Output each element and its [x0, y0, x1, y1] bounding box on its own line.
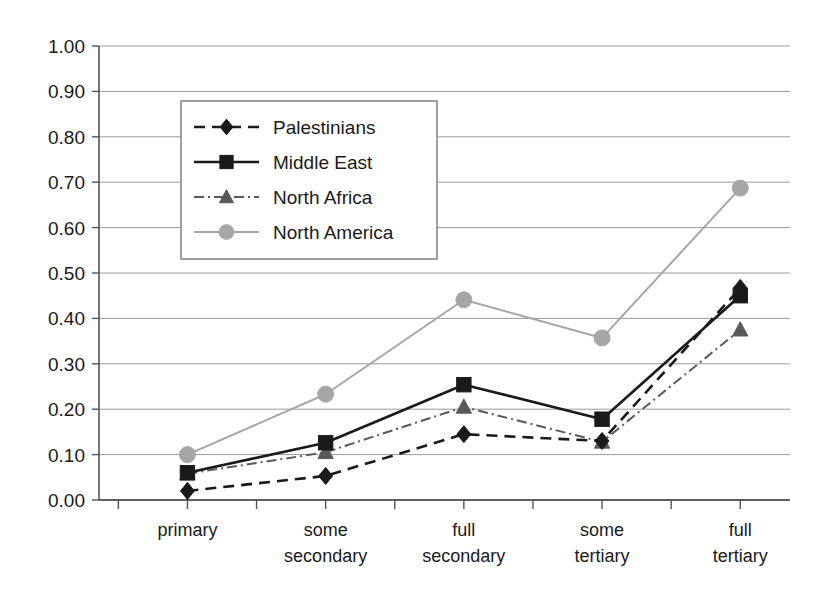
data-point-circle-marker: [594, 330, 610, 346]
y-tick-label: 0.80: [48, 127, 85, 148]
data-point-circle-marker: [179, 447, 195, 463]
x-tick-label: some: [580, 520, 624, 540]
data-point-diamond-marker: [180, 482, 194, 499]
data-point-circle-marker: [732, 180, 748, 196]
series-middle-east: [180, 289, 747, 480]
data-point-square-marker: [180, 466, 194, 480]
y-tick-label: 0.40: [48, 308, 85, 329]
y-tick-label: 1.00: [48, 36, 85, 57]
y-tick-label: 0.90: [48, 81, 85, 102]
legend-label: Middle East: [273, 152, 373, 173]
data-point-circle-marker: [219, 225, 234, 240]
y-tick-label: 0.30: [48, 354, 85, 375]
y-tick-label: 0.70: [48, 172, 85, 193]
legend-label: North America: [273, 222, 394, 243]
x-tick-label: tertiary: [713, 546, 768, 566]
x-tick-label: secondary: [422, 546, 505, 566]
legend-label: North Africa: [273, 187, 373, 208]
x-tick-label: full: [452, 520, 475, 540]
data-point-diamond-marker: [319, 467, 333, 484]
data-point-square-marker: [220, 155, 233, 168]
y-axis-tick-labels: 0.000.100.200.300.400.500.600.700.800.90…: [48, 36, 99, 511]
data-point-square-marker: [457, 377, 471, 391]
data-point-square-marker: [595, 412, 609, 426]
x-tick-label: tertiary: [575, 546, 630, 566]
x-tick-label: full: [729, 520, 752, 540]
y-tick-label: 0.00: [48, 490, 85, 511]
x-axis-tick-labels: primarysomesecondaryfullsecondarysometer…: [157, 520, 767, 566]
data-point-square-marker: [318, 436, 332, 450]
x-tick-label: primary: [157, 520, 217, 540]
chart-legend: PalestiniansMiddle EastNorth AfricaNorth…: [181, 101, 437, 259]
y-tick-label: 0.10: [48, 445, 85, 466]
x-tick-label: some: [304, 520, 348, 540]
data-point-circle-marker: [456, 292, 472, 308]
chart-canvas: 0.000.100.200.300.400.500.600.700.800.90…: [0, 0, 829, 590]
data-point-triangle-marker: [456, 399, 471, 413]
data-point-diamond-marker: [457, 426, 471, 443]
line-chart: 0.000.100.200.300.400.500.600.700.800.90…: [0, 0, 829, 590]
data-point-circle-marker: [318, 386, 334, 402]
y-tick-label: 0.20: [48, 399, 85, 420]
y-tick-label: 0.60: [48, 218, 85, 239]
y-tick-label: 0.50: [48, 263, 85, 284]
x-axis-tick-marks: [99, 500, 790, 509]
data-point-triangle-marker: [733, 322, 748, 336]
x-tick-label: secondary: [284, 546, 367, 566]
legend-label: Palestinians: [273, 117, 375, 138]
